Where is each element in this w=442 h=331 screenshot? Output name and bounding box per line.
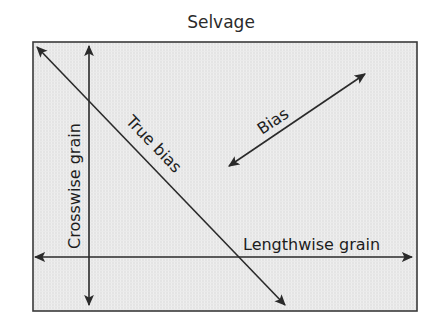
fabric-grain-diagram: Selvage Crosswise grain Lengthwise grain… [0,0,442,331]
crosswise-grain-label: Crosswise grain [65,123,84,249]
fabric-rectangle [33,42,417,311]
page-title: Selvage [187,12,255,32]
lengthwise-grain-label: Lengthwise grain [243,235,380,254]
diagram-canvas: Selvage Crosswise grain Lengthwise grain… [0,0,442,331]
